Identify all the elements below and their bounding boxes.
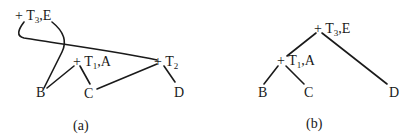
- edge-t1-c: [286, 66, 304, 84]
- node-t2-a: + T2: [154, 55, 178, 69]
- plus-marker: +: [154, 54, 162, 69]
- node-name: T: [288, 53, 297, 68]
- node-t1-a-b: + T1,A: [277, 54, 315, 68]
- node-subscript: 2: [174, 61, 179, 71]
- node-c-b: C: [304, 86, 313, 100]
- node-t3-e-a: + T3,E: [15, 9, 51, 23]
- node-b-a: B: [36, 86, 45, 100]
- edge-t3-b: [44, 22, 64, 88]
- plus-marker: +: [277, 53, 285, 68]
- node-suffix: ,A: [97, 54, 111, 69]
- node-t3-e-b: + T3,E: [314, 22, 350, 36]
- node-name: T: [325, 21, 334, 36]
- edge-t1-b: [264, 66, 278, 84]
- node-d-a: D: [174, 86, 184, 100]
- plus-marker: +: [314, 21, 322, 36]
- node-b-b: B: [258, 86, 267, 100]
- node-t1-a-a: + T1,A: [73, 55, 111, 69]
- caption-a: (a): [73, 119, 89, 133]
- tree-edges: [0, 0, 418, 137]
- node-name: T: [26, 8, 35, 23]
- node-suffix: ,E: [39, 8, 51, 23]
- edge-t1-b: [47, 66, 74, 88]
- node-c-a: C: [84, 87, 93, 101]
- node-name: T: [84, 54, 93, 69]
- caption-b: (b): [306, 117, 322, 131]
- node-suffix: ,E: [338, 21, 350, 36]
- plus-marker: +: [73, 54, 81, 69]
- node-d-b: D: [389, 86, 399, 100]
- node-suffix: ,A: [301, 53, 315, 68]
- edge-t3-d: [322, 33, 387, 84]
- plus-marker: +: [15, 8, 23, 23]
- node-name: T: [165, 54, 174, 69]
